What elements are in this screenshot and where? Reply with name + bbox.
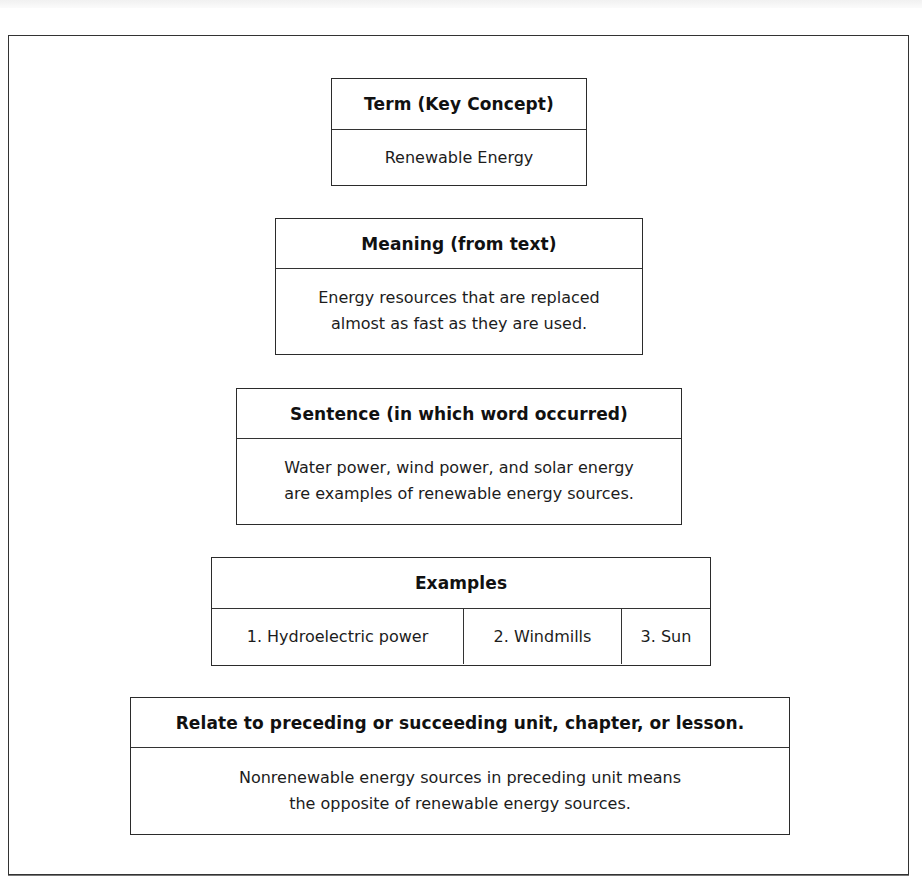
relate-line-1: Nonrenewable energy sources in preceding…: [239, 765, 681, 791]
meaning-header: Meaning (from text): [276, 219, 642, 269]
examples-box: Examples 1. Hydroelectric power 2. Windm…: [211, 557, 711, 666]
term-header: Term (Key Concept): [332, 79, 586, 130]
sentence-line-1: Water power, wind power, and solar energ…: [284, 455, 634, 481]
example-item-3: 3. Sun: [621, 609, 710, 664]
term-value: Renewable Energy: [332, 130, 586, 185]
page-bleed-through: [0, 0, 922, 8]
examples-header: Examples: [212, 558, 710, 609]
relate-header: Relate to preceding or succeeding unit, …: [131, 698, 789, 748]
examples-row: 1. Hydroelectric power 2. Windmills 3. S…: [212, 609, 710, 664]
meaning-line-1: Energy resources that are replaced: [318, 285, 600, 311]
relate-line-2: the opposite of renewable energy sources…: [289, 791, 631, 817]
sentence-box: Sentence (in which word occurred) Water …: [236, 388, 682, 525]
relate-box: Relate to preceding or succeeding unit, …: [130, 697, 790, 835]
meaning-definition: Energy resources that are replaced almos…: [276, 269, 642, 353]
term-value-text: Renewable Energy: [385, 145, 534, 171]
example-item-2: 2. Windmills: [463, 609, 621, 664]
sentence-header: Sentence (in which word occurred): [237, 389, 681, 439]
sentence-text: Water power, wind power, and solar energ…: [237, 439, 681, 523]
meaning-box: Meaning (from text) Energy resources tha…: [275, 218, 643, 355]
example-item-1: 1. Hydroelectric power: [212, 609, 463, 664]
sentence-line-2: are examples of renewable energy sources…: [284, 481, 634, 507]
relate-text: Nonrenewable energy sources in preceding…: [131, 748, 789, 833]
term-box: Term (Key Concept) Renewable Energy: [331, 78, 587, 186]
meaning-line-2: almost as fast as they are used.: [331, 311, 587, 337]
